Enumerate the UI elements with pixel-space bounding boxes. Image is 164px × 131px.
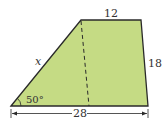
trapezoid-diagram: 12 18 x 50° 28: [0, 0, 164, 131]
arrowhead-right: [142, 112, 147, 116]
arrowhead-left: [12, 112, 17, 116]
label-angle: 50°: [26, 94, 44, 105]
label-left: x: [35, 55, 42, 68]
label-right: 18: [148, 57, 162, 70]
label-bottom: 28: [73, 107, 87, 120]
label-top: 12: [104, 7, 118, 20]
